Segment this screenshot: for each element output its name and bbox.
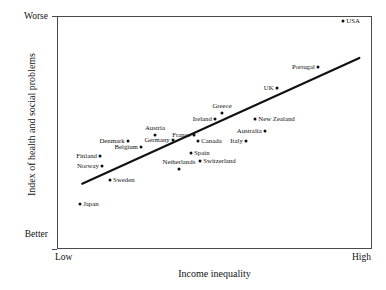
data-point-finland — [99, 155, 102, 158]
data-point-portugal — [317, 66, 320, 69]
y-axis-tick-better — [52, 249, 57, 250]
x-axis-title: Income inequality — [57, 268, 372, 279]
data-point-canada — [197, 139, 200, 142]
data-label-uk: UK — [264, 85, 274, 92]
data-label-norway: Norway — [77, 163, 99, 170]
data-point-uk — [275, 86, 278, 89]
data-label-switzerland: Switzerland — [203, 158, 235, 165]
data-point-spain — [189, 152, 192, 155]
data-point-belgium — [140, 145, 143, 148]
data-point-usa — [342, 19, 345, 22]
x-axis-label-high: High — [352, 253, 371, 263]
data-point-australia — [263, 130, 266, 133]
data-point-france — [193, 134, 196, 137]
data-point-new-zealand — [254, 117, 257, 120]
data-label-portugal: Portugal — [292, 64, 315, 71]
data-label-japan: Japan — [83, 201, 98, 208]
data-point-switzerland — [199, 159, 202, 162]
data-point-ireland — [214, 117, 217, 120]
data-point-netherlands — [177, 168, 180, 171]
data-label-new-zealand: New Zealand — [258, 116, 294, 123]
data-label-finland: Finland — [76, 153, 97, 160]
data-label-usa: USA — [346, 17, 360, 24]
data-label-greece: Greece — [212, 103, 231, 110]
data-label-italy: Italy — [230, 137, 242, 144]
data-label-france: France — [172, 132, 191, 139]
data-label-austria: Austria — [145, 125, 165, 132]
y-axis-tick-worse — [52, 16, 57, 17]
data-point-norway — [101, 165, 104, 168]
data-label-ireland: Ireland — [193, 116, 212, 123]
plot-area — [57, 16, 372, 249]
x-axis-label-low: Low — [55, 253, 72, 263]
data-label-canada: Canada — [201, 137, 221, 144]
data-label-netherlands: Netherlands — [162, 159, 195, 166]
y-axis-title: Index of health and social problems — [26, 8, 37, 241]
data-point-japan — [78, 203, 81, 206]
data-point-germany — [171, 138, 174, 141]
data-label-sweden: Sweden — [113, 177, 135, 184]
data-point-italy — [245, 139, 248, 142]
data-point-greece — [221, 111, 224, 114]
data-label-belgium: Belgium — [114, 144, 137, 151]
data-label-germany: Germany — [144, 137, 169, 144]
scatter-plot-figure: USAPortugalUKGreeceIrelandNew ZealandAus… — [0, 0, 386, 290]
data-label-spain: Spain — [194, 150, 209, 157]
data-point-sweden — [108, 179, 111, 182]
data-label-australia: Australia — [237, 128, 262, 135]
